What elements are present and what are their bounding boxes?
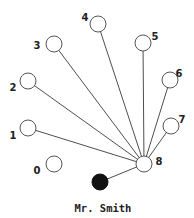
- node-7: [163, 118, 179, 134]
- node-0: [46, 156, 62, 172]
- node-1: [20, 120, 36, 136]
- node-2: [20, 73, 36, 89]
- node-3: [46, 36, 62, 52]
- node-label-3: 3: [34, 40, 41, 51]
- edge-1-8: [28, 128, 144, 164]
- edge-2-8: [28, 81, 144, 164]
- node-label-4: 4: [82, 12, 89, 23]
- node-label-5: 5: [152, 31, 159, 42]
- node-smith: [92, 174, 108, 190]
- node-label-smith: Mr. Smith: [75, 202, 132, 214]
- edge-5-8: [143, 43, 144, 164]
- node-8: [136, 156, 152, 172]
- network-diagram: 012345678Mr. Smith: [0, 0, 194, 218]
- node-label-2: 2: [10, 82, 17, 93]
- node-label-0: 0: [34, 165, 41, 176]
- node-label-1: 1: [10, 130, 17, 141]
- node-label-7: 7: [179, 114, 186, 125]
- node-5: [135, 35, 151, 51]
- node-label-6: 6: [176, 68, 183, 79]
- node-4: [90, 16, 106, 32]
- node-label-8: 8: [156, 156, 163, 167]
- edge-3-8: [54, 44, 144, 164]
